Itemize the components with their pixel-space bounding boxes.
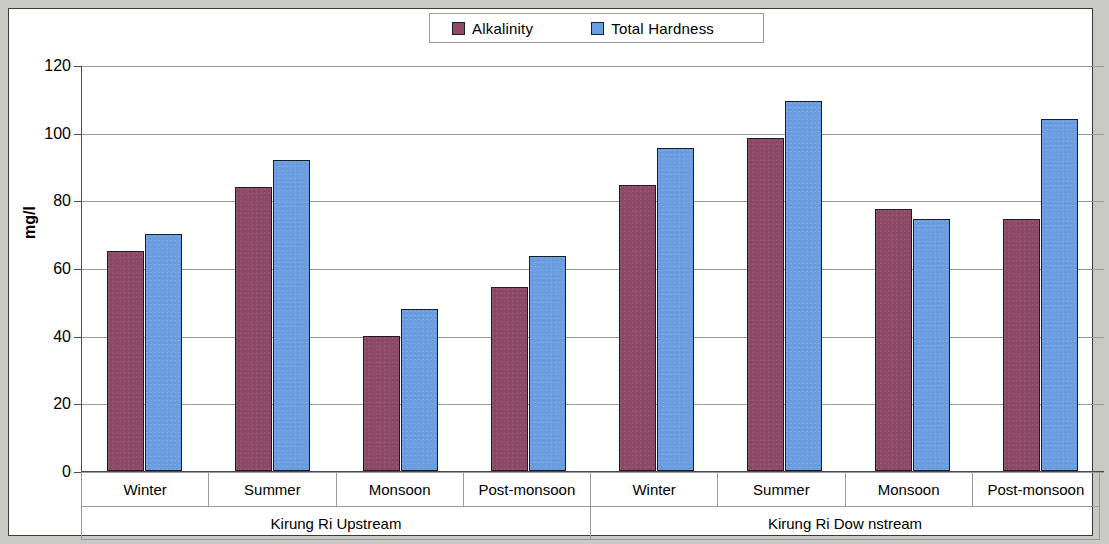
bar-total-hardness-4: [657, 148, 694, 471]
category-label-5: Summer: [717, 472, 844, 507]
y-axis-tick: [74, 134, 81, 135]
bar-alkalinity-0: [107, 251, 144, 471]
category-label-3: Post-monsoon: [463, 472, 590, 507]
category-label-7: Post-monsoon: [972, 472, 1100, 507]
chart-canvas: Alkalinity Total Hardness mg/l 020406080…: [8, 8, 1093, 536]
y-axis-tick-label: 80: [53, 192, 71, 210]
plot-area: [81, 66, 1104, 472]
y-axis-tick-label: 60: [53, 260, 71, 278]
bar-total-hardness-1: [273, 160, 310, 471]
bar-total-hardness-7: [1041, 119, 1078, 471]
bar-total-hardness-3: [529, 256, 566, 471]
bar-series-container: [81, 66, 1104, 472]
y-axis-tick-label: 100: [44, 125, 71, 143]
y-axis-tick: [74, 472, 81, 473]
bar-alkalinity-1: [235, 187, 272, 471]
category-axis-table: WinterSummerMonsoonPost-monsoonWinterSum…: [81, 472, 1100, 542]
legend-entry-total-hardness: Total Hardness: [591, 20, 714, 37]
category-label-1: Summer: [208, 472, 335, 507]
y-axis-tick: [74, 269, 81, 270]
chart-screenshot: Alkalinity Total Hardness mg/l 020406080…: [0, 0, 1109, 544]
bar-total-hardness-2: [401, 309, 438, 471]
bar-alkalinity-3: [491, 287, 528, 471]
group-label-0: Kirung Ri Upstream: [81, 507, 590, 540]
category-label-4: Winter: [590, 472, 717, 507]
group-label-1: Kirung Ri Dow nstream: [590, 507, 1100, 540]
bar-total-hardness-5: [785, 101, 822, 471]
bar-alkalinity-5: [747, 138, 784, 471]
legend-label-total-hardness: Total Hardness: [611, 20, 714, 37]
legend-entry-alkalinity: Alkalinity: [452, 20, 533, 37]
y-axis-tick-label: 0: [62, 463, 71, 481]
bar-alkalinity-7: [1003, 219, 1040, 471]
category-label-2: Monsoon: [336, 472, 463, 507]
y-axis-tick: [74, 66, 81, 67]
category-label-6: Monsoon: [845, 472, 972, 507]
bar-total-hardness-0: [145, 234, 182, 471]
legend-swatch-icon-alkalinity: [452, 22, 465, 35]
bar-total-hardness-6: [913, 219, 950, 471]
bar-alkalinity-2: [363, 336, 400, 471]
legend-label-alkalinity: Alkalinity: [472, 20, 533, 37]
y-axis-tick-label: 20: [53, 395, 71, 413]
y-axis-tick-labels: 020406080100120: [9, 66, 71, 472]
legend-swatch-icon-total-hardness: [591, 22, 604, 35]
group-row: Kirung Ri UpstreamKirung Ri Dow nstream: [81, 507, 1100, 540]
y-axis-tick-label: 120: [44, 57, 71, 75]
bar-alkalinity-4: [619, 185, 656, 471]
y-axis-tick-label: 40: [53, 328, 71, 346]
chart-legend: Alkalinity Total Hardness: [429, 13, 764, 43]
y-axis-tick: [74, 404, 81, 405]
category-label-0: Winter: [81, 472, 208, 507]
y-axis-tick: [74, 337, 81, 338]
bar-alkalinity-6: [875, 209, 912, 471]
category-row: WinterSummerMonsoonPost-monsoonWinterSum…: [81, 472, 1100, 507]
y-axis-tick: [74, 201, 81, 202]
